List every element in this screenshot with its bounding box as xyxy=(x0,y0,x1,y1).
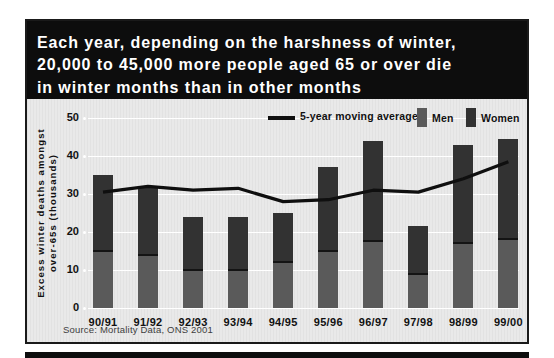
bar-women-segment-96/97 xyxy=(363,141,383,240)
bar-97/98 xyxy=(408,226,428,308)
bar-men-segment-91/92 xyxy=(138,256,158,308)
bar-women-segment-99/00 xyxy=(498,139,518,239)
bar-men-segment-92/93 xyxy=(183,271,203,308)
y-axis-title: Excess winter deaths amongst over-65s (t… xyxy=(35,108,59,318)
y-tick-label-40: 40 xyxy=(39,149,79,161)
figure-content: Each year, depending on the harshness of… xyxy=(27,21,527,342)
y-axis-title-line-1: Excess winter deaths amongst xyxy=(35,108,47,318)
figure-title-line-3: in winter months than in other months xyxy=(37,77,527,99)
excess-winter-deaths-figure: Each year, depending on the harshness of… xyxy=(25,19,529,344)
bar-women-segment-91/92 xyxy=(138,186,158,253)
bar-women-segment-98/99 xyxy=(453,145,473,243)
bar-men-segment-95/96 xyxy=(318,252,338,308)
bar-women-segment-93/94 xyxy=(228,217,248,269)
figure-title-bar: Each year, depending on the harshness of… xyxy=(27,21,527,99)
women-legend-label: Women xyxy=(481,112,520,124)
gridline-0 xyxy=(88,308,519,309)
moving-average-legend-label: 5-year moving average xyxy=(300,110,418,122)
x-tick-label-95/96: 95/96 xyxy=(305,316,351,328)
axis-tick-dot-50 xyxy=(83,117,86,120)
bar-94/95 xyxy=(273,213,293,308)
axis-tick-dot-30 xyxy=(83,193,86,196)
bar-92/93 xyxy=(183,217,203,308)
y-tick-label-10: 10 xyxy=(39,263,79,275)
bar-men-segment-98/99 xyxy=(453,244,473,308)
y-axis-title-line-2: over-65s (thousands) xyxy=(47,108,59,318)
axis-tick-dot-10 xyxy=(83,269,86,272)
x-tick-label-97/98: 97/98 xyxy=(395,316,441,328)
bar-men-segment-96/97 xyxy=(363,242,383,308)
y-tick-label-20: 20 xyxy=(39,225,79,237)
bar-men-segment-99/00 xyxy=(498,240,518,308)
bar-90/91 xyxy=(93,175,113,308)
x-tick-label-99/00: 99/00 xyxy=(485,316,531,328)
bar-women-segment-95/96 xyxy=(318,167,338,249)
men-legend-label: Men xyxy=(432,112,454,124)
men-legend-swatch xyxy=(417,108,427,127)
women-legend-swatch xyxy=(466,108,476,127)
y-tick-label-30: 30 xyxy=(39,187,79,199)
axis-tick-dot-0 xyxy=(83,307,86,310)
bar-98/99 xyxy=(453,145,473,308)
bar-95/96 xyxy=(318,167,338,308)
x-tick-label-98/99: 98/99 xyxy=(440,316,486,328)
axis-tick-dot-40 xyxy=(83,155,86,158)
moving-average-line-swatch xyxy=(268,116,295,120)
bar-99/00 xyxy=(498,139,518,308)
bar-women-segment-90/91 xyxy=(93,175,113,250)
bar-96/97 xyxy=(363,141,383,308)
y-tick-label-50: 50 xyxy=(39,111,79,123)
x-tick-label-96/97: 96/97 xyxy=(350,316,396,328)
x-tick-label-93/94: 93/94 xyxy=(215,316,261,328)
figure-title-line-1: Each year, depending on the harshness of… xyxy=(37,32,527,54)
bar-men-segment-90/91 xyxy=(93,252,113,308)
bar-women-segment-97/98 xyxy=(408,226,428,272)
axis-tick-dot-20 xyxy=(83,231,86,234)
bar-women-segment-92/93 xyxy=(183,217,203,269)
source-note: Source: Mortality Data, ONS 2001 xyxy=(63,324,213,335)
bar-men-segment-94/95 xyxy=(273,263,293,308)
bar-men-segment-93/94 xyxy=(228,271,248,308)
bar-93/94 xyxy=(228,217,248,308)
bar-men-segment-97/98 xyxy=(408,275,428,308)
x-tick-label-94/95: 94/95 xyxy=(260,316,306,328)
screenshot-root: Each year, depending on the harshness of… xyxy=(0,0,554,358)
next-section-title-bar-edge xyxy=(25,352,529,358)
bar-91/92 xyxy=(138,186,158,308)
y-tick-label-0: 0 xyxy=(39,301,79,313)
bar-women-segment-94/95 xyxy=(273,213,293,261)
figure-title-line-2: 20,000 to 45,000 more people aged 65 or … xyxy=(37,54,527,76)
